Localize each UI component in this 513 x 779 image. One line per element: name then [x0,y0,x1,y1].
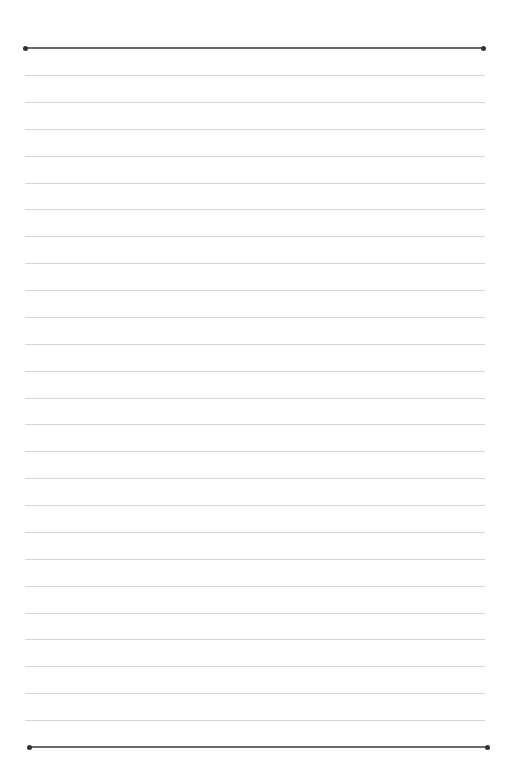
ruled-line [25,666,485,667]
ruled-line [25,102,485,103]
ruled-line [25,344,485,345]
ruled-line [25,559,485,560]
ruled-line [25,209,485,210]
ruled-line [25,156,485,157]
bottom-rule-right-endpoint [485,745,490,750]
top-rule-left-endpoint [23,46,28,51]
ruled-line [25,398,485,399]
ruled-line [25,317,485,318]
ruled-line [25,236,485,237]
ruled-line [25,478,485,479]
ruled-line [25,613,485,614]
ruled-line [25,263,485,264]
ruled-line [25,290,485,291]
bottom-rule [29,746,487,748]
ruled-line [25,371,485,372]
ruled-line [25,505,485,506]
ruled-line [25,720,485,721]
ruled-line [25,451,485,452]
top-rule [25,47,483,49]
ruled-line [25,586,485,587]
ruled-line [25,639,485,640]
bottom-rule-left-endpoint [27,745,32,750]
top-rule-right-endpoint [481,46,486,51]
lined-paper-page [0,0,513,779]
ruled-line [25,693,485,694]
ruled-line [25,183,485,184]
ruled-line [25,75,485,76]
ruled-line [25,532,485,533]
ruled-line [25,129,485,130]
ruled-line [25,424,485,425]
